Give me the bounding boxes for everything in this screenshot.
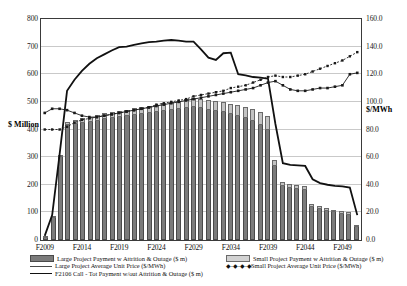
bar-stack [65,122,70,241]
bar-stack [147,106,152,240]
bar-segment-large-project [213,111,218,240]
bar-column [234,19,241,240]
x-axis-labels: F2009F2014F2019F2024F2029F2034F2039F2044… [41,243,361,254]
legend-thick-line-icon [30,271,52,276]
bar-stack [161,103,166,240]
legend-item[interactable]: Large Project Payment w Attrition & Outa… [30,255,220,262]
bar-column [323,19,330,240]
bar-segment-large-project [243,118,248,240]
legend-dotted-marker-icon: ◆-◆-◆-◆ [226,264,248,269]
bar-stack [110,112,115,240]
legend-item-label: Large Project Average Unit Price ($/MWh) [55,262,165,269]
bar-segment-large-project [43,238,48,240]
bar-column [242,19,249,240]
bar-segment-large-project [272,166,277,240]
y-tick-left: 300 [6,153,38,161]
legend-item-label: Small Project Payment w Attrition & Outa… [253,255,383,262]
x-tick-label: F2044 [296,243,314,252]
bar-stack [102,113,107,240]
bar-stack [88,117,93,240]
bar-column [101,19,108,240]
bar-segment-large-project [250,121,255,240]
bar-stack [339,211,344,240]
bar-segment-small-project [147,106,152,113]
bar-stack [95,115,100,240]
bar-segment-large-project [184,108,189,240]
legend-item[interactable]: Small Project Payment w Attrition & Outa… [226,255,406,262]
bar-column [308,19,315,240]
bar-stack [117,111,122,240]
bar-column [42,19,49,240]
y-tick-left: 600 [6,70,38,78]
y-tick-right: 0.0 [366,236,406,244]
bar-stack [206,100,211,240]
bar-stack [294,185,299,240]
bar-stack [235,105,240,240]
bar-segment-large-project [280,186,285,240]
bar-segment-small-project [139,107,144,114]
bar-segment-large-project [117,117,122,240]
bar-segment-small-project [198,99,203,108]
bar-column [182,19,189,240]
bar-column [190,19,197,240]
bar-stack [169,102,174,240]
bar-series-container [41,19,361,240]
y-tick-left: 700 [6,43,38,51]
bar-column [72,19,79,240]
bar-segment-large-project [139,114,144,240]
bar-stack [309,204,314,240]
bar-segment-large-project [287,188,292,240]
bar-segment-large-project [331,212,336,240]
bar-segment-large-project [294,189,299,240]
bar-stack [73,120,78,240]
bar-stack [176,101,181,240]
x-tick-label: F2009 [36,243,54,252]
plot-area [41,19,361,240]
legend-bar-dark-icon [30,255,54,262]
y-tick-right: 140.0 [366,43,406,51]
y-tick-left: 200 [6,181,38,189]
bar-column [57,19,64,240]
bar-stack [58,155,63,240]
bar-segment-small-project [243,107,248,119]
legend-bar-light-icon [226,255,250,262]
legend-solid-line-icon [30,264,52,269]
bar-stack [243,107,248,240]
bar-stack [287,184,292,240]
y-tick-right: 80.0 [366,126,406,134]
bar-segment-small-project [124,110,129,117]
bar-column [153,19,160,240]
chart-root: 0100200300400500600700800 0.020.040.060.… [0,0,407,286]
bar-segment-large-project [317,209,322,240]
legend-item[interactable]: ◆-◆-◆-◆Small Project Average Unit Price … [226,262,406,269]
bar-column [279,19,286,240]
bar-segment-large-project [80,123,85,240]
bar-segment-small-project [176,101,181,110]
legend-item-label: F2106 Call - Tot Payment w/out Attrition… [55,270,203,277]
bar-column [109,19,116,240]
bar-segment-large-project [198,108,203,240]
bar-segment-small-project [235,105,240,116]
bar-stack [250,109,255,240]
bar-column [271,19,278,240]
bar-segment-large-project [132,115,137,240]
bar-segment-small-project [161,103,166,111]
legend-item[interactable]: Large Project Average Unit Price ($/MWh) [30,262,220,269]
bar-stack [132,108,137,240]
bar-column [131,19,138,240]
bar-stack [139,107,144,240]
bar-column [86,19,93,240]
bar-segment-large-project [265,130,270,241]
legend-item[interactable]: F2106 Call - Tot Payment w/out Attrition… [30,270,220,277]
bar-segment-large-project [354,227,359,240]
bar-segment-large-project [58,157,63,240]
legend-column-left: Large Project Payment w Attrition & Outa… [30,255,220,277]
bar-stack [265,116,270,240]
bar-segment-large-project [206,110,211,240]
bar-stack [51,216,56,240]
bar-stack [346,212,351,240]
y-tick-right: 120.0 [366,70,406,78]
bar-segment-small-project [228,104,233,114]
bar-segment-large-project [124,116,129,240]
y-tick-left: 0 [6,236,38,244]
